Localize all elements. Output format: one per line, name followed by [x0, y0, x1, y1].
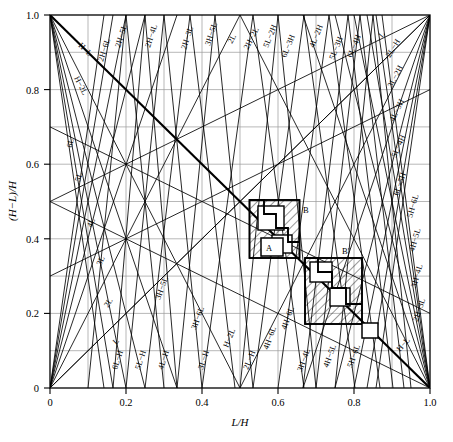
xtick-1: 0.2 [119, 397, 132, 408]
chart-root: A B B' 0 0.2 0.4 0.6 0.8 1.0 0 0.2 0.4 0… [0, 0, 453, 442]
y-axis-title: (H−L)/H [6, 180, 19, 221]
region-label-b: B [303, 205, 309, 215]
xtick-4: 0.8 [347, 397, 360, 408]
ytick-4: 0.8 [26, 85, 39, 96]
ytick-5: 1.0 [26, 10, 39, 21]
ytick-3: 0.6 [26, 159, 39, 170]
xtick-3: 0.6 [271, 397, 284, 408]
ytick-2: 0.4 [26, 234, 40, 245]
xtick-5: 1.0 [423, 397, 436, 408]
region-tail-box [362, 323, 378, 338]
x-axis-title: L/H [230, 416, 249, 428]
xtick-2: 0.4 [195, 397, 209, 408]
xtick-0: 0 [47, 397, 52, 408]
ytick-0: 0 [34, 383, 39, 394]
region-label-a: A [266, 243, 273, 253]
ytick-1: 0.2 [26, 308, 39, 319]
nomogram-chart: A B B' 0 0.2 0.4 0.6 0.8 1.0 0 0.2 0.4 0… [0, 0, 453, 442]
label-left-6L: 6L [65, 138, 76, 149]
region-label-bprime: B' [342, 246, 350, 256]
